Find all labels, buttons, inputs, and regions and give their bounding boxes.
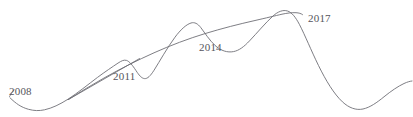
year-label-2014: 2014	[199, 42, 222, 53]
sketch-figure: 2008 2011 2014 2017	[0, 0, 413, 117]
oscillating-curve-path	[10, 11, 412, 111]
year-label-2017: 2017	[308, 13, 331, 24]
year-label-2008: 2008	[9, 86, 32, 97]
timeline-curve-canvas	[0, 0, 413, 117]
year-label-2011: 2011	[113, 71, 135, 82]
